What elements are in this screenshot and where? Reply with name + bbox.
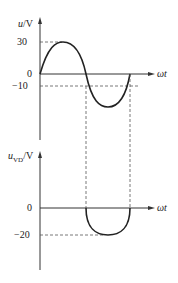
bottom-x-arrow-icon — [148, 206, 155, 210]
bottom-x-label: ωt — [157, 203, 167, 213]
bottom-y-arrow-icon — [38, 151, 42, 158]
top-tick-m10: −10 — [12, 81, 28, 91]
top-x-label: ωt — [157, 69, 167, 79]
bottom-plot — [38, 151, 155, 270]
bottom-y-label-sub: VD — [13, 156, 23, 164]
top-tick-30: 30 — [17, 37, 27, 47]
top-plot — [38, 17, 155, 140]
top-y-label-unit: /V — [23, 18, 33, 29]
bottom-tick-m20: −20 — [14, 230, 30, 240]
top-y-label: u/V — [18, 19, 33, 29]
top-tick-0: 0 — [27, 69, 32, 79]
bottom-half-wave-curve — [86, 208, 130, 235]
top-x-arrow-icon — [148, 72, 155, 76]
top-y-arrow-icon — [38, 17, 42, 24]
bottom-y-label-unit: /V — [23, 150, 33, 161]
bottom-y-label: uVD/V — [8, 151, 33, 165]
bottom-tick-0: 0 — [27, 203, 32, 213]
